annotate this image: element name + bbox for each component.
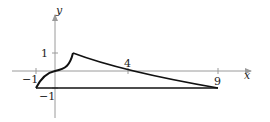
chart: y x 1 −1 −1 4 9: [0, 0, 270, 122]
x-tick-label-4: 4: [124, 57, 131, 70]
y-tick-label-neg1: −1: [39, 90, 55, 103]
x-axis-label: x: [244, 69, 251, 82]
x-tick-label-neg1: −1: [22, 73, 38, 86]
x-tick-label-9: 9: [214, 75, 221, 88]
y-tick-label-1: 1: [41, 47, 48, 60]
y-axis-label: y: [55, 4, 63, 17]
